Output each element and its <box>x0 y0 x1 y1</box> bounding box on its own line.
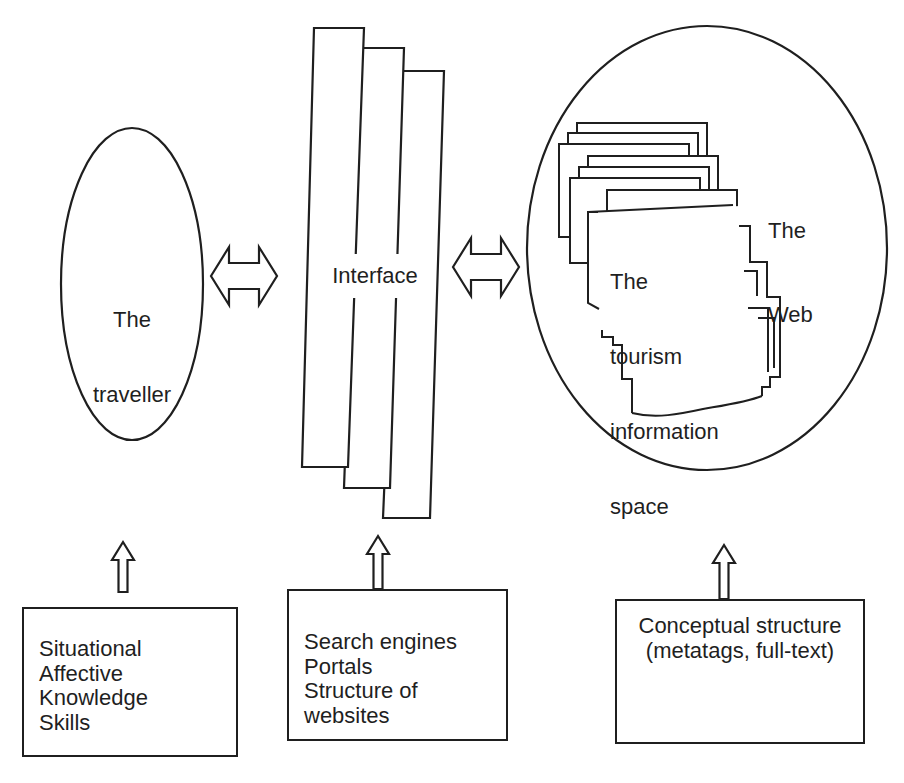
interface-web-arrow <box>453 238 519 296</box>
traveller-interface-arrow <box>211 247 277 305</box>
traveller-factors-up-arrow <box>112 542 134 592</box>
web-label-line: Web <box>768 301 813 329</box>
web-factors-box: Conceptual structure (metatags, full-tex… <box>615 599 865 744</box>
traveller-factors-box: Situational Affective Knowledge Skills <box>22 607 238 757</box>
factor-line: Structure of websites <box>304 679 506 728</box>
interface-factors-box: Search engines Portals Structure of webs… <box>287 589 508 741</box>
web-factors-text: Conceptual structure (metatags, full-tex… <box>617 601 863 663</box>
interface-factors-text: Search engines Portals Structure of webs… <box>289 591 506 728</box>
factor-line: Affective <box>39 662 236 687</box>
tourism-label-line: information <box>610 419 719 444</box>
tourism-label-line: space <box>610 494 719 519</box>
factor-line: Knowledge <box>39 686 236 711</box>
traveller-factors-text: Situational Affective Knowledge Skills <box>24 609 236 735</box>
factor-line: Skills <box>39 711 236 736</box>
factor-line: Search engines <box>304 630 506 655</box>
interface-factors-up-arrow <box>367 536 389 589</box>
factor-line: Conceptual structure <box>617 613 863 638</box>
traveller-node-label: The traveller <box>52 257 212 457</box>
factor-line: Situational <box>39 637 236 662</box>
traveller-label-line: The <box>52 307 212 332</box>
web-node-label: The Web <box>768 161 813 385</box>
interface-label-text: Interface <box>332 265 418 287</box>
web-label-line: The <box>768 217 813 245</box>
tourism-space-label: The tourism information space <box>610 219 719 569</box>
factor-line: (metatags, full-text) <box>617 638 863 663</box>
traveller-label-line: traveller <box>52 382 212 407</box>
factor-line: Portals <box>304 655 506 680</box>
tourism-label-line: The <box>610 269 719 294</box>
interface-node-label: Interface <box>322 254 428 298</box>
tourism-label-line: tourism <box>610 344 719 369</box>
diagram-canvas: The traveller Interface The Web The tour… <box>0 0 904 783</box>
